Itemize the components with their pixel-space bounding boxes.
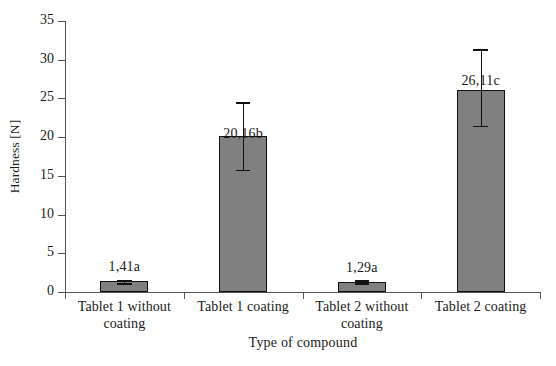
y-axis-tick-label: 0 xyxy=(47,283,54,299)
y-axis-title: Hardness [N] xyxy=(4,21,26,292)
y-axis-tick xyxy=(58,215,65,216)
y-axis-tick-label: 25 xyxy=(40,89,54,105)
y-axis-tick xyxy=(58,292,65,293)
error-bar-cap-upper xyxy=(117,280,131,282)
y-axis-tick-label: 5 xyxy=(47,244,54,260)
error-bar-cap-upper xyxy=(473,49,487,51)
error-bar-cap-lower xyxy=(236,170,250,172)
y-axis-tick xyxy=(58,176,65,177)
x-axis-category-label: Tablet 1 without coating xyxy=(65,298,184,332)
bar-data-label: 1,41a xyxy=(109,259,141,275)
y-axis-tick xyxy=(58,21,65,22)
y-axis-tick xyxy=(58,98,65,99)
y-axis-tick-label: 35 xyxy=(40,12,54,28)
error-bar-cap-lower xyxy=(473,126,487,128)
y-axis-tick-label: 30 xyxy=(40,51,54,67)
x-axis-title: Type of compound xyxy=(65,335,541,351)
error-bar-cap-lower xyxy=(117,283,131,285)
y-axis-tick xyxy=(58,60,65,61)
y-axis-tick xyxy=(58,253,65,254)
plot-area: 1,41a20,16b1,29a26,11c xyxy=(65,21,540,292)
bar-data-label: 20,16b xyxy=(223,126,263,142)
y-axis-tick xyxy=(58,137,65,138)
bar-data-label: 1,29a xyxy=(346,260,378,276)
y-axis-tick-label: 20 xyxy=(40,128,54,144)
bar-chart: Hardness [N] 1,41a20,16b1,29a26,11c 0510… xyxy=(0,0,556,366)
x-axis-category-label: Tablet 2 without coating xyxy=(303,298,422,332)
x-axis-category-label: Tablet 2 coating xyxy=(421,298,540,315)
x-axis-category-label: Tablet 1 coating xyxy=(184,298,303,315)
error-bar-cap-upper xyxy=(236,102,250,104)
y-axis-tick-label: 15 xyxy=(40,167,54,183)
bar-data-label: 26,11c xyxy=(461,73,499,89)
error-bar-cap-upper xyxy=(355,280,369,282)
error-bar-cap-lower xyxy=(355,283,369,285)
y-axis-tick-label: 10 xyxy=(40,206,54,222)
x-axis-tick xyxy=(540,292,541,299)
